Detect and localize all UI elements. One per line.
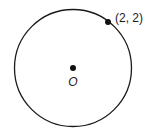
center-point <box>70 65 76 71</box>
diagram-canvas: O (2, 2) <box>0 0 156 137</box>
center-label: O <box>68 75 77 89</box>
point-label: (2, 2) <box>115 11 143 25</box>
point-on-circle <box>105 19 111 25</box>
